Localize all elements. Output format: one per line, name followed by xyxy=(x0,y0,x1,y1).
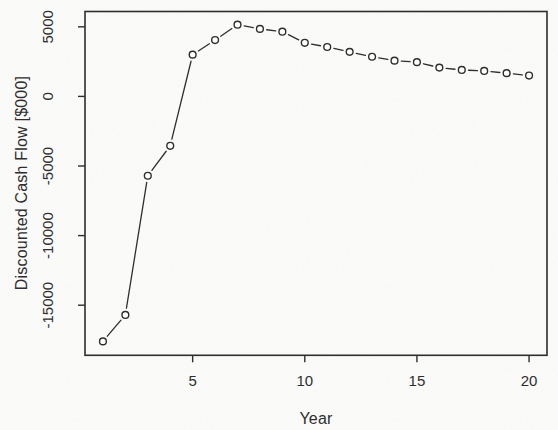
data-point-marker xyxy=(257,25,264,32)
x-axis-tick-label: 5 xyxy=(188,372,196,389)
x-axis-tick-label: 15 xyxy=(409,372,426,389)
data-point-marker xyxy=(503,70,510,77)
data-point-marker xyxy=(391,57,398,64)
x-axis-tick-label: 10 xyxy=(296,372,313,389)
y-axis-tick-label: -5000 xyxy=(39,147,56,185)
data-point-marker xyxy=(234,21,241,28)
data-point-marker xyxy=(144,172,151,179)
data-point-marker xyxy=(346,48,353,55)
data-point-marker xyxy=(481,68,488,75)
data-point-marker xyxy=(324,44,331,51)
data-point-marker xyxy=(436,64,443,71)
x-axis-tick-label: 20 xyxy=(521,372,538,389)
x-axis-title: Year xyxy=(299,410,332,428)
data-point-marker xyxy=(458,67,465,74)
data-point-marker xyxy=(414,59,421,66)
data-point-marker xyxy=(100,338,107,345)
data-point-marker xyxy=(279,28,286,35)
y-axis-tick-label: 5000 xyxy=(39,10,56,43)
data-point-marker xyxy=(167,142,174,149)
scan-noise-texture xyxy=(0,0,558,430)
data-point-marker xyxy=(369,53,376,60)
y-axis-tick-label: -15000 xyxy=(39,282,56,329)
y-axis-tick-label: 0 xyxy=(39,92,56,100)
data-point-marker xyxy=(301,39,308,46)
data-point-marker xyxy=(189,51,196,58)
data-point-marker xyxy=(526,72,533,79)
scanned-chart-page: 510152050000-5000-10000-15000 Year Disco… xyxy=(0,0,558,430)
data-point-marker xyxy=(212,37,219,44)
y-axis-title: Discounted Cash Flow [$000] xyxy=(13,76,31,290)
series-line-segment xyxy=(401,61,410,62)
data-point-marker xyxy=(122,312,129,319)
series-line-segment xyxy=(491,72,500,73)
chart-canvas: 510152050000-5000-10000-15000 xyxy=(0,0,558,430)
y-axis-tick-label: -10000 xyxy=(39,212,56,259)
dcf-line-chart: 510152050000-5000-10000-15000 Year Disco… xyxy=(0,0,558,430)
